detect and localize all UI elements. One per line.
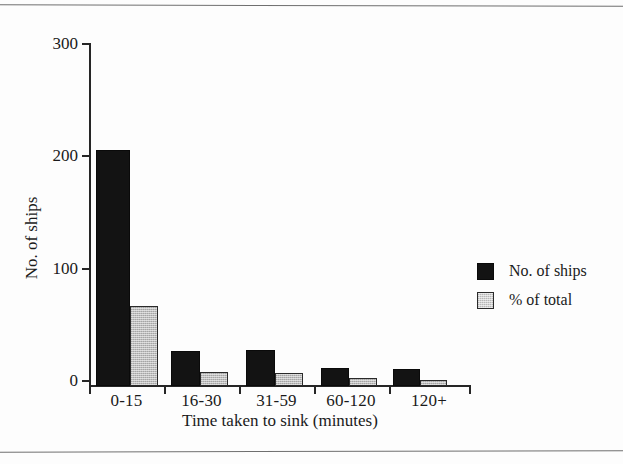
x-tick-5 <box>469 387 471 394</box>
figure-page: 300 200 100 0 0-15 16-30 31-59 6 <box>0 0 623 464</box>
bar-chart: 300 200 100 0 0-15 16-30 31-59 6 <box>0 6 623 450</box>
y-axis-title: No. of ships <box>22 173 42 303</box>
x-category-label-3: 60-120 <box>310 391 392 411</box>
legend-swatch-icon-pct <box>477 292 494 309</box>
legend-item-pct-of-total: % of total <box>477 288 617 317</box>
legend-swatch-icon-ships <box>477 263 494 280</box>
legend-item-no-of-ships: No. of ships <box>477 259 617 288</box>
y-tick-label-200: 200 <box>20 147 78 164</box>
bar-ships-120plus <box>393 369 420 386</box>
x-category-label-1: 16-30 <box>164 391 239 411</box>
y-tick-0 <box>82 380 89 382</box>
y-tick-200 <box>82 155 89 157</box>
legend-label-ships: No. of ships <box>509 262 587 280</box>
bar-ships-0-15 <box>96 150 130 386</box>
x-axis-title: Time taken to sink (minutes) <box>89 411 471 431</box>
bar-pct-60-120 <box>349 378 377 386</box>
chart-legend: No. of ships % of total <box>477 259 617 317</box>
bar-ships-60-120 <box>321 368 349 386</box>
y-tick-300 <box>82 43 89 45</box>
bar-pct-31-59 <box>275 373 303 386</box>
bar-pct-16-30 <box>200 372 228 386</box>
legend-label-pct: % of total <box>509 291 572 309</box>
y-tick-label-0: 0 <box>20 372 78 389</box>
y-tick-100 <box>82 268 89 270</box>
bar-pct-0-15 <box>130 306 158 386</box>
x-category-label-4: 120+ <box>389 391 469 411</box>
bar-pct-120plus <box>420 380 447 386</box>
bar-ships-16-30 <box>171 351 200 386</box>
x-category-label-0: 0-15 <box>89 391 164 411</box>
y-tick-label-300: 300 <box>20 35 78 52</box>
x-category-label-2: 31-59 <box>239 391 314 411</box>
y-axis-line <box>89 43 91 387</box>
page-rule-bottom <box>0 450 623 452</box>
bar-ships-31-59 <box>246 350 275 386</box>
